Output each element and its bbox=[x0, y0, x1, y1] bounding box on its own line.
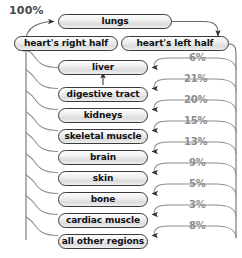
node-liver[interactable]: liver bbox=[58, 60, 148, 75]
node-all-other-regions[interactable]: all other regions bbox=[58, 234, 148, 249]
node-hearts-left-half[interactable]: heart's left half bbox=[121, 36, 229, 51]
wire-lungs-to-heart-left bbox=[172, 22, 218, 37]
wire-collect-allother bbox=[26, 216, 58, 236]
percent-label-skin: 9% bbox=[189, 157, 206, 168]
wire-collect-brain bbox=[26, 132, 58, 152]
total-flow-label: 100% bbox=[9, 4, 44, 17]
node-digestive-tract[interactable]: digestive tract bbox=[58, 87, 148, 102]
percent-label-digestive-tract: 21% bbox=[184, 73, 207, 84]
wire-collect-skeletal bbox=[26, 111, 58, 131]
node-lungs[interactable]: lungs bbox=[58, 14, 172, 29]
node-cardiac-muscle[interactable]: cardiac muscle bbox=[58, 213, 148, 228]
percent-label-all-other-regions: 8% bbox=[189, 220, 206, 231]
wire-collect-kidneys bbox=[26, 90, 58, 110]
percent-label-kidneys: 20% bbox=[184, 94, 207, 105]
wire-collect-digestive bbox=[26, 69, 58, 89]
wire-collect-bone bbox=[26, 174, 58, 194]
percent-label-skeletal-muscle: 15% bbox=[184, 115, 207, 126]
percent-label-bone: 5% bbox=[189, 178, 206, 189]
circulation-diagram: 100% lungs heart's right half heart's le… bbox=[0, 0, 242, 258]
node-skin[interactable]: skin bbox=[58, 171, 148, 186]
percent-label-liver: 6% bbox=[189, 52, 206, 63]
node-bone[interactable]: bone bbox=[58, 192, 148, 207]
node-brain[interactable]: brain bbox=[58, 150, 148, 165]
wire-collect-skin bbox=[26, 153, 58, 173]
wire-collect-cardiac bbox=[26, 195, 58, 215]
percent-label-brain: 13% bbox=[184, 136, 207, 147]
node-hearts-right-half[interactable]: heart's right half bbox=[14, 36, 118, 51]
node-skeletal-muscle[interactable]: skeletal muscle bbox=[58, 129, 148, 144]
percent-label-cardiac-muscle: 3% bbox=[189, 199, 206, 210]
node-kidneys[interactable]: kidneys bbox=[58, 108, 148, 123]
